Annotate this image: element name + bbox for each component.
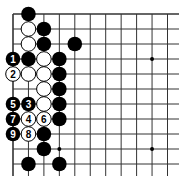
white-stone — [21, 37, 36, 52]
black-stone — [21, 7, 36, 22]
move-number: 9 — [10, 129, 16, 140]
star-point — [150, 57, 154, 61]
white-stone — [37, 52, 52, 67]
move-number: 5 — [10, 99, 16, 110]
black-stone — [52, 112, 67, 127]
black-stone — [37, 127, 52, 142]
black-stone — [52, 157, 67, 172]
black-stone — [52, 67, 67, 82]
black-stone — [21, 52, 36, 67]
black-stone — [52, 52, 67, 67]
black-stone — [68, 37, 83, 52]
star-point — [57, 147, 61, 151]
black-stone — [21, 157, 36, 172]
move-number: 3 — [26, 99, 32, 110]
move-number: 7 — [10, 114, 16, 125]
black-stone — [37, 22, 52, 37]
white-stone — [37, 67, 52, 82]
white-stone — [21, 67, 36, 82]
move-number: 4 — [26, 114, 32, 125]
black-stone — [37, 37, 52, 52]
move-number: 2 — [10, 69, 16, 80]
black-stone — [37, 142, 52, 157]
black-stone — [52, 97, 67, 112]
white-stone — [37, 82, 52, 97]
white-stone — [37, 97, 52, 112]
black-stone — [52, 82, 67, 97]
go-board: 125374698 — [0, 0, 188, 176]
star-point — [150, 147, 154, 151]
go-board-diagram: 125374698 — [0, 0, 188, 176]
move-number: 6 — [41, 114, 47, 125]
white-stone — [21, 22, 36, 37]
move-number: 8 — [26, 129, 32, 140]
move-number: 1 — [10, 54, 16, 65]
